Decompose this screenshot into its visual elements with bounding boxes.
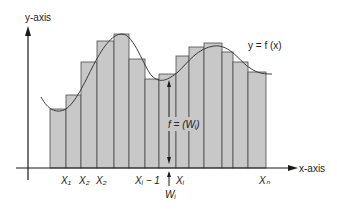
- x-tick-label: Xₙ: [258, 175, 271, 186]
- y-axis-label: y-axis: [25, 12, 51, 23]
- bar-2: [66, 95, 81, 168]
- bar-7: [145, 79, 159, 168]
- riemann-sum-diagram: f = (Wᵢ) Wᵢ y-axis x-axis y = f (x) X₁X₂…: [0, 0, 337, 213]
- bar-12: [222, 52, 233, 168]
- x-tick-label: X₂: [78, 175, 90, 186]
- width-marker-label: Wᵢ: [165, 189, 176, 200]
- x-axis-label: x-axis: [299, 163, 325, 174]
- x-tick-label: X₂: [95, 175, 107, 186]
- height-label: f = (Wᵢ): [168, 119, 200, 130]
- x-tick-label: Xᵢ: [175, 175, 185, 186]
- bar-11: [204, 43, 222, 168]
- bar-10: [189, 47, 204, 168]
- bar-6: [129, 59, 145, 168]
- bar-1: [50, 109, 66, 168]
- y-axis-arrow-icon: [25, 26, 31, 36]
- bar-14: [248, 72, 266, 168]
- width-marker-arrow-icon: [167, 171, 171, 177]
- bar-5: [114, 34, 129, 168]
- bar-4: [97, 41, 114, 168]
- x-tick-label: X₁: [60, 175, 71, 186]
- x-tick-label: Xᵢ − 1: [134, 175, 160, 186]
- bar-3: [81, 62, 97, 168]
- bar-9: [176, 56, 189, 168]
- bar-13: [233, 62, 248, 168]
- x-axis-arrow-icon: [288, 165, 298, 171]
- curve-label: y = f (x): [248, 40, 282, 51]
- x-tick-labels: X₁X₂X₂Xᵢ − 1XᵢXₙ: [60, 175, 271, 186]
